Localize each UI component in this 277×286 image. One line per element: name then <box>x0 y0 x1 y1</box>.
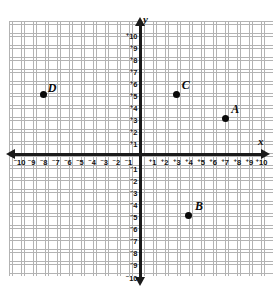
tick-number: 4 <box>133 201 137 210</box>
tick-number: 2 <box>116 158 120 167</box>
plotted-point-a <box>222 115 229 122</box>
y-tick-label: +1 <box>122 138 138 149</box>
tick-number: 1 <box>133 165 137 174</box>
tick-number: 7 <box>133 68 137 77</box>
tick-number: 9 <box>249 158 253 167</box>
tick-number: 10 <box>129 32 137 41</box>
point-label-c: C <box>182 78 190 93</box>
tick-number: 7 <box>55 158 59 167</box>
tick-number: 9 <box>31 158 35 167</box>
y-tick-label: –1 <box>122 163 138 174</box>
y-tick-label: –5 <box>122 211 138 222</box>
tick-number: 10 <box>129 274 137 283</box>
y-tick-label: –8 <box>122 247 138 258</box>
plotted-point-d <box>40 91 47 98</box>
tick-number: 3 <box>176 158 180 167</box>
tick-number: 6 <box>67 158 71 167</box>
tick-number: 3 <box>104 158 108 167</box>
y-tick-label: +8 <box>122 54 138 65</box>
tick-number: 6 <box>133 225 137 234</box>
tick-number: 9 <box>133 261 137 270</box>
tick-number: 3 <box>133 116 137 125</box>
y-tick-label: +10 <box>122 30 138 41</box>
tick-number: 10 <box>259 158 267 167</box>
tick-number: 1 <box>152 158 156 167</box>
tick-number: 2 <box>133 128 137 137</box>
y-tick-label: +3 <box>122 114 138 125</box>
tick-number: 5 <box>80 158 84 167</box>
point-label-d: D <box>48 81 57 96</box>
tick-number: 9 <box>133 44 137 53</box>
tick-number: 5 <box>133 92 137 101</box>
tick-number: 8 <box>133 56 137 65</box>
tick-number: 4 <box>92 158 96 167</box>
y-tick-label: –3 <box>122 187 138 198</box>
y-tick-label: +9 <box>122 42 138 53</box>
point-label-a: A <box>231 102 239 117</box>
tick-number: 2 <box>133 177 137 186</box>
tick-number: 7 <box>133 237 137 246</box>
tick-number: 8 <box>133 249 137 258</box>
plotted-point-c <box>173 91 180 98</box>
y-axis-label: y <box>143 13 148 25</box>
tick-number: 1 <box>133 140 137 149</box>
tick-number: 7 <box>225 158 229 167</box>
y-tick-label: –7 <box>122 235 138 246</box>
tick-number: 4 <box>189 158 193 167</box>
tick-number: 5 <box>201 158 205 167</box>
y-tick-label: –4 <box>122 199 138 210</box>
y-tick-label: +6 <box>122 78 138 89</box>
x-tick-label: +10 <box>255 156 269 167</box>
tick-number: 5 <box>133 213 137 222</box>
y-tick-label: +7 <box>122 66 138 77</box>
point-label-b: B <box>195 199 203 214</box>
y-tick-label: –6 <box>122 223 138 234</box>
tick-number: 2 <box>164 158 168 167</box>
x-axis-label: x <box>258 135 264 147</box>
coordinate-plane-figure: x y –10–9–8–7–6–5–4–3–2–1+1+2+3+4+5+6+7+… <box>0 0 277 286</box>
y-tick-label: –9 <box>122 259 138 270</box>
tick-number: 8 <box>43 158 47 167</box>
tick-number: 6 <box>133 80 137 89</box>
plotted-point-b <box>185 212 192 219</box>
y-tick-label: +2 <box>122 126 138 137</box>
tick-number: 4 <box>133 104 137 113</box>
y-tick-label: +5 <box>122 90 138 101</box>
tick-number: 8 <box>237 158 241 167</box>
y-tick-label: –10 <box>122 272 138 283</box>
tick-number: 3 <box>133 189 137 198</box>
y-axis-line <box>139 26 142 278</box>
y-tick-label: –2 <box>122 175 138 186</box>
y-tick-label: +4 <box>122 102 138 113</box>
tick-number: 6 <box>213 158 217 167</box>
